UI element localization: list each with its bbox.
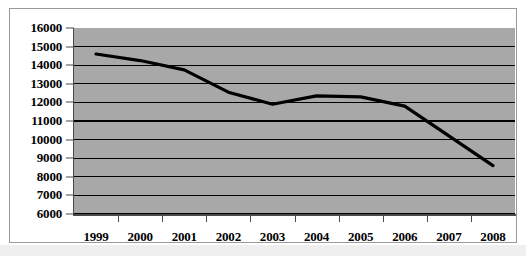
- y-axis-tick-label: 15000: [30, 39, 62, 55]
- x-axis-tick: [206, 215, 207, 222]
- x-axis-tick-label: 2006: [392, 229, 417, 245]
- x-axis-tick-label: 2000: [128, 229, 153, 245]
- plot-area: [74, 28, 515, 214]
- y-axis-tick-label: 6000: [37, 206, 62, 222]
- x-axis-tick: [250, 215, 251, 222]
- page-bottom-strip: [0, 245, 526, 256]
- y-axis-tick: [66, 158, 74, 159]
- y-axis-tick: [66, 195, 74, 196]
- x-axis-tick-label: 2001: [172, 229, 197, 245]
- data-series-line: [74, 28, 515, 214]
- y-axis-tick: [66, 65, 74, 66]
- chart-screenshot: 1600015000140001300012000110001000090008…: [0, 0, 526, 256]
- y-axis-tick: [66, 102, 74, 103]
- x-axis-tick: [383, 215, 384, 222]
- x-axis-tick-label: 2004: [304, 229, 329, 245]
- y-axis-tick: [66, 121, 74, 122]
- y-axis-tick-label: 11000: [31, 113, 62, 129]
- y-axis-labels: 1600015000140001300012000110001000090008…: [10, 9, 74, 256]
- y-axis-tick: [66, 214, 74, 215]
- y-axis-tick-label: 13000: [30, 76, 62, 92]
- x-axis-tick: [427, 215, 428, 222]
- x-axis-tick-label: 2005: [348, 229, 373, 245]
- x-axis-tick: [162, 215, 163, 222]
- x-axis-tick: [295, 215, 296, 222]
- x-axis-tick-label: 2002: [216, 229, 241, 245]
- x-axis-tick-label: 2007: [436, 229, 461, 245]
- y-axis-tick: [66, 28, 74, 29]
- chart-frame: 1600015000140001300012000110001000090008…: [9, 8, 517, 243]
- y-axis-tick: [66, 139, 74, 140]
- y-axis-tick: [66, 176, 74, 177]
- y-axis-tick: [66, 83, 74, 84]
- y-axis-tick-label: 10000: [30, 132, 62, 148]
- y-axis-tick-label: 9000: [37, 150, 62, 166]
- y-axis-tick-label: 16000: [30, 20, 62, 36]
- y-axis-tick-label: 12000: [30, 94, 62, 110]
- y-axis-tick-label: 8000: [37, 169, 62, 185]
- y-axis-tick: [66, 46, 74, 47]
- x-axis-tick: [118, 215, 119, 222]
- x-axis-tick: [471, 215, 472, 222]
- x-axis-tick-label: 1999: [83, 229, 108, 245]
- x-axis-tick-label: 2003: [260, 229, 285, 245]
- y-axis-tick-label: 7000: [37, 187, 62, 203]
- y-axis-tick-label: 14000: [30, 57, 62, 73]
- x-axis-tick-label: 2008: [480, 229, 505, 245]
- x-axis-tick: [339, 215, 340, 222]
